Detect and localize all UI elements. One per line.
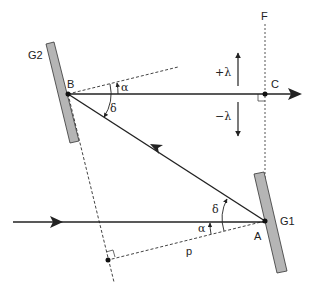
label-alpha-top: α bbox=[121, 81, 129, 94]
label-p: p bbox=[186, 245, 192, 257]
alpha-arc-a bbox=[210, 223, 211, 234]
b-to-foot-dashed-line bbox=[68, 94, 114, 282]
diffracted-beam-arrowhead bbox=[150, 144, 163, 154]
label-g1: G1 bbox=[280, 215, 295, 227]
point-foot bbox=[106, 258, 111, 263]
label-alpha-bottom: α bbox=[198, 222, 206, 235]
diffracted-beam-a-to-b bbox=[68, 94, 265, 221]
label-minus-lambda: −λ bbox=[215, 110, 231, 123]
label-f: F bbox=[261, 10, 268, 22]
label-a: A bbox=[254, 230, 262, 242]
label-c: C bbox=[271, 78, 279, 90]
label-delta-top: δ bbox=[110, 102, 117, 115]
point-b bbox=[66, 92, 71, 97]
label-plus-lambda: +λ bbox=[215, 66, 231, 79]
grating-diagram: G2 B C F G1 A p α δ α δ +λ −λ bbox=[0, 0, 309, 294]
label-delta-bottom: δ bbox=[212, 203, 219, 216]
label-b: B bbox=[67, 78, 74, 90]
label-g2: G2 bbox=[28, 49, 43, 61]
point-c bbox=[263, 92, 268, 97]
alpha-arc-b bbox=[117, 83, 118, 94]
delta-arc-a bbox=[222, 199, 227, 231]
point-a bbox=[263, 219, 268, 224]
